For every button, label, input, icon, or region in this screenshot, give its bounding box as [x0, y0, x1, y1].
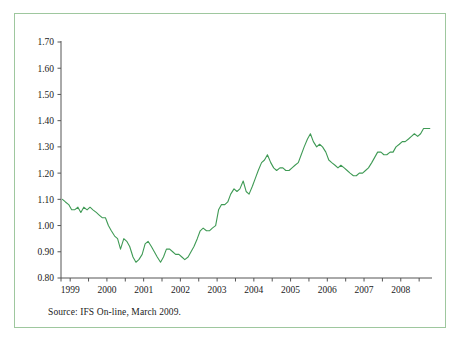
x-tick-label: 2007 — [355, 285, 374, 295]
x-tick-label: 2001 — [134, 285, 153, 295]
y-tick-label: 1.40 — [37, 116, 54, 126]
y-tick-label: 1.20 — [37, 169, 54, 179]
figure-root: 0.800.901.001.101.201.301.401.501.601.70… — [0, 0, 461, 343]
x-tick-label: 2006 — [318, 285, 337, 295]
figure-frame: 0.800.901.001.101.201.301.401.501.601.70… — [14, 13, 446, 328]
x-tick-label: 2002 — [171, 285, 190, 295]
x-tick-label: 2008 — [391, 285, 410, 295]
y-tick-label: 1.30 — [37, 142, 54, 152]
data-line-exchange-rate — [62, 129, 429, 263]
x-tick-label: 2004 — [244, 285, 263, 295]
y-tick-label: 0.90 — [37, 247, 54, 257]
y-tick-label: 1.60 — [37, 64, 54, 74]
y-tick-label: 1.70 — [37, 37, 54, 47]
line-chart: 0.800.901.001.101.201.301.401.501.601.70… — [15, 14, 447, 329]
x-tick-label: 2005 — [281, 285, 300, 295]
chart-plot-area: 0.800.901.001.101.201.301.401.501.601.70… — [15, 14, 447, 329]
x-tick-label: 1999 — [61, 285, 80, 295]
y-tick-label: 1.00 — [37, 221, 54, 231]
y-tick-label: 1.10 — [37, 195, 54, 205]
source-note: Source: IFS On-line, March 2009. — [48, 307, 181, 317]
y-tick-label: 0.80 — [37, 273, 54, 283]
x-tick-label: 2000 — [97, 285, 116, 295]
y-tick-label: 1.50 — [37, 90, 54, 100]
x-tick-label: 2003 — [208, 285, 227, 295]
